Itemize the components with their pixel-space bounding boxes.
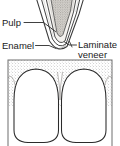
tooth-cross-section-panel: Pulp Enamel Laminate veneer: [2, 0, 117, 60]
label-pulp: Pulp: [2, 17, 21, 28]
laminate-veneer-pointer-tick: [70, 42, 73, 48]
left-tooth-fill: [14, 69, 59, 143]
label-enamel: Enamel: [2, 40, 34, 51]
illustration-canvas: Pulp Enamel Laminate veneer: [0, 0, 120, 146]
label-laminate-veneer-line2: veneer: [78, 49, 107, 60]
right-tooth-fill: [62, 69, 107, 143]
dental-illustration-figure: Pulp Enamel Laminate veneer: [0, 0, 120, 146]
two-teeth-frontal-panel: [8, 60, 112, 146]
